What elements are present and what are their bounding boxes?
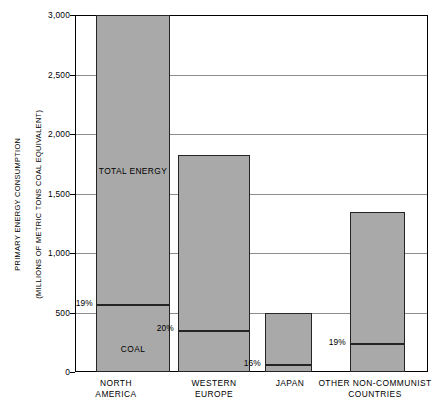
plot-right-border bbox=[427, 15, 428, 372]
y-tick-label-1500: 1,500 bbox=[24, 189, 70, 199]
y-tick-stub-0 bbox=[70, 372, 75, 373]
coal-divider-japan bbox=[265, 364, 312, 366]
bar-other-non-communist-countries bbox=[350, 212, 405, 372]
y-tick-label-3000: 3,000 bbox=[24, 10, 70, 20]
coal-percent-other-non-communist-countries: 19% bbox=[290, 337, 346, 347]
coal-percent-north-america: 19% bbox=[29, 298, 93, 308]
y-tick-label-500: 500 bbox=[24, 308, 70, 318]
coal-divider-north-america bbox=[96, 304, 170, 306]
y-axis-line bbox=[75, 15, 76, 372]
coal-percent-japan: 16% bbox=[207, 358, 261, 368]
y-tick-label-1000: 1,000 bbox=[24, 248, 70, 258]
annotation-coal: COAL bbox=[96, 333, 170, 354]
plot-area: TOTAL ENERGY COAL 19% 20% 16% 19% bbox=[75, 15, 428, 372]
bar-western-europe bbox=[178, 155, 250, 372]
primary-energy-consumption-bar-chart: PRIMARY ENERGY CONSUMPTION (MILLIONS OF … bbox=[0, 0, 441, 409]
annotation-total-energy: TOTAL ENERGY bbox=[96, 155, 170, 176]
y-tick-label-2000: 2,000 bbox=[24, 129, 70, 139]
coal-divider-other-non-communist-countries bbox=[350, 343, 405, 345]
x-category-label-other-non-communist-countries: OTHER NON-COMMUNIST COUNTRIES bbox=[311, 378, 439, 400]
y-tick-label-0: 0 bbox=[24, 367, 70, 377]
x-category-label-north-america: NORTH AMERICA bbox=[61, 378, 171, 400]
y-tick-label-2500: 2,500 bbox=[24, 70, 70, 80]
y-axis-ticks: 3,000 2,500 2,000 1,500 1,000 500 0 bbox=[0, 0, 70, 409]
coal-percent-western-europe: 20% bbox=[116, 323, 174, 333]
bar-north-america bbox=[96, 15, 170, 372]
coal-divider-western-europe bbox=[178, 330, 250, 332]
